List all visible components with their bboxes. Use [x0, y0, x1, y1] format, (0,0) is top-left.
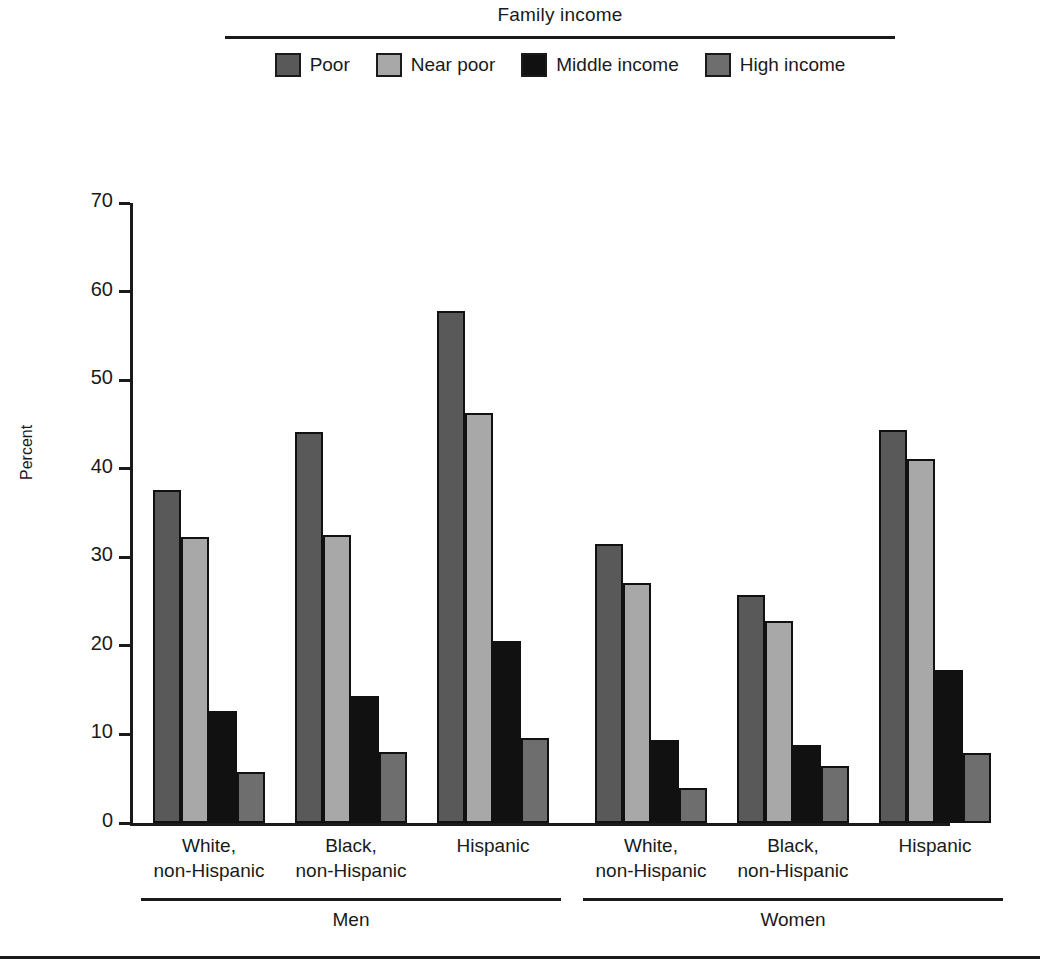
legend-items: PoorNear poorMiddle incomeHigh income [225, 53, 895, 77]
supergroup-label: Men [141, 909, 561, 931]
legend-item: High income [705, 53, 846, 77]
bar [237, 772, 265, 823]
y-axis-tick [119, 467, 130, 470]
y-axis-tick [119, 290, 130, 293]
category-label-line1: Hispanic [850, 833, 1020, 858]
plot-area [130, 203, 950, 823]
y-axis-tick [119, 822, 130, 825]
y-axis-tick-label: 40 [55, 455, 113, 478]
supergroup-rule [141, 898, 561, 901]
y-axis-tick [119, 556, 130, 559]
legend: Family income PoorNear poorMiddle income… [225, 4, 895, 77]
bar [437, 311, 465, 823]
legend-item-label: Middle income [556, 54, 679, 76]
legend-title: Family income [225, 4, 895, 26]
y-axis-tick-label: 50 [55, 366, 113, 389]
bar [465, 413, 493, 823]
bar [209, 711, 237, 823]
bar [737, 595, 765, 823]
y-axis-tick-label: 0 [55, 809, 113, 832]
bottom-frame-rule [0, 956, 1040, 959]
y-axis-tick [119, 644, 130, 647]
bar [793, 745, 821, 823]
bar [153, 490, 181, 823]
y-axis-tick-label: 70 [55, 189, 113, 212]
y-axis-tick [119, 733, 130, 736]
bar [879, 430, 907, 823]
legend-swatch-icon [275, 53, 301, 77]
bar [379, 752, 407, 823]
figure-container: Family income PoorNear poorMiddle income… [0, 0, 1040, 962]
bar [935, 670, 963, 823]
supergroup-label: Women [583, 909, 1003, 931]
category-label-line1: Hispanic [408, 833, 578, 858]
x-axis-category-label: Hispanic [408, 833, 578, 858]
supergroup-rule [583, 898, 1003, 901]
legend-item-label: Poor [310, 54, 350, 76]
category-label-line2: non-Hispanic [708, 858, 878, 883]
bar [821, 766, 849, 823]
legend-item: Near poor [376, 53, 496, 77]
y-axis-tick-label: 10 [55, 720, 113, 743]
y-axis-tick-label: 30 [55, 543, 113, 566]
bar [765, 621, 793, 823]
bar [323, 535, 351, 823]
y-axis-tick [119, 202, 130, 205]
bar [295, 432, 323, 823]
bar [493, 641, 521, 823]
legend-swatch-icon [376, 53, 402, 77]
x-axis-supergroup: Women [583, 898, 1003, 944]
category-label-line2: non-Hispanic [266, 858, 436, 883]
bar [623, 583, 651, 823]
y-axis-tick-label: 20 [55, 632, 113, 655]
legend-item: Poor [275, 53, 350, 77]
legend-divider [225, 36, 895, 39]
bar [651, 740, 679, 823]
bar [521, 738, 549, 823]
legend-item: Middle income [521, 53, 679, 77]
legend-item-label: Near poor [411, 54, 496, 76]
bar [595, 544, 623, 823]
legend-item-label: High income [740, 54, 846, 76]
x-axis-supergroup: Men [141, 898, 561, 944]
y-axis-tick [119, 379, 130, 382]
x-axis-category-label: Hispanic [850, 833, 1020, 858]
bar [351, 696, 379, 823]
bar [679, 788, 707, 823]
bars-layer [133, 203, 950, 823]
legend-swatch-icon [521, 53, 547, 77]
y-axis-tick-label: 60 [55, 278, 113, 301]
x-axis-line [130, 823, 950, 826]
bar [181, 537, 209, 823]
y-axis-label: Percent [18, 425, 36, 480]
legend-swatch-icon [705, 53, 731, 77]
bar [963, 753, 991, 823]
x-axis-category-labels: White,non-HispanicBlack,non-HispanicHisp… [130, 833, 950, 889]
bar [907, 459, 935, 823]
